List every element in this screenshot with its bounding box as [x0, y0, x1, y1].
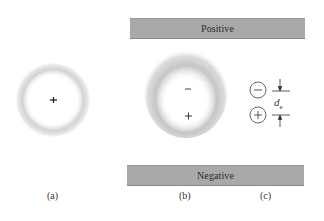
positive-plate-label: Positive: [201, 23, 234, 34]
positive-plate: Positive: [130, 18, 305, 39]
negative-plate-label: Negative: [197, 170, 234, 181]
atom-polarized: [144, 46, 228, 138]
caption-c: (c): [260, 190, 271, 201]
plus-icon: [254, 111, 262, 119]
caption-b: (b): [179, 190, 191, 201]
separation-label: de: [274, 96, 283, 111]
dipole-model: [250, 79, 290, 127]
caption-a: (a): [47, 190, 58, 201]
negative-plate: Negative: [127, 165, 304, 186]
atom-unpolarized: [15, 62, 91, 138]
separation-subscript: e: [280, 103, 283, 111]
